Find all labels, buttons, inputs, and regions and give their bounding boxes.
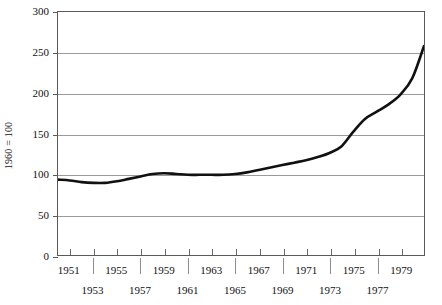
x-axis-label-separator <box>330 258 331 274</box>
x-axis-tick-label: 1955 <box>105 265 127 276</box>
x-axis-tick-label: 1967 <box>248 265 270 276</box>
x-axis-label-separator <box>283 258 284 274</box>
y-axis-tick-label: 0 <box>44 251 50 262</box>
x-axis-tick-labels: 1951195319551957195919611963196519671969… <box>57 256 425 305</box>
plot-inner <box>58 12 424 255</box>
y-axis-tick-label: 250 <box>33 47 50 58</box>
x-axis-tick-label: 1969 <box>272 285 294 296</box>
y-axis-title-label: 1960 = 100 <box>4 121 15 169</box>
x-axis-tick-label: 1977 <box>367 285 389 296</box>
x-axis-label-separator <box>235 258 236 274</box>
x-axis-label-separator <box>188 258 189 274</box>
x-axis-tick-label: 1979 <box>390 265 412 276</box>
x-axis-tick-label: 1965 <box>224 285 246 296</box>
y-axis-tick-mark <box>53 135 58 136</box>
y-axis-tick-label: 150 <box>33 129 50 140</box>
x-axis-tick-label: 1971 <box>295 265 317 276</box>
x-axis-tick-label: 1963 <box>200 265 222 276</box>
y-axis-tick-label: 50 <box>38 210 49 221</box>
x-axis-tick-label: 1951 <box>58 265 80 276</box>
x-axis-tick-label: 1957 <box>129 285 151 296</box>
y-axis-tick-label: 100 <box>33 169 50 180</box>
x-axis-tick-label: 1953 <box>82 285 104 296</box>
x-axis-label-separator <box>378 258 379 274</box>
y-axis-title: 1960 = 100 <box>0 100 18 190</box>
x-axis-tick-label: 1959 <box>153 265 175 276</box>
y-axis-tick-labels: 050100150200250300 <box>18 0 53 305</box>
y-axis-tick-label: 300 <box>33 6 50 17</box>
series-line-index <box>58 12 424 255</box>
y-axis-tick-mark <box>53 94 58 95</box>
x-axis-label-separator <box>140 258 141 274</box>
y-axis-tick-mark <box>53 216 58 217</box>
y-axis-tick-label: 200 <box>33 88 50 99</box>
x-axis-tick-label: 1975 <box>343 265 365 276</box>
y-axis-tick-mark <box>53 53 58 54</box>
y-axis-tick-mark <box>53 175 58 176</box>
plot-area <box>57 11 425 256</box>
x-axis-tick-label: 1973 <box>319 285 341 296</box>
y-axis-tick-mark <box>53 12 58 13</box>
x-axis-label-separator <box>93 258 94 274</box>
line-chart: 1960 = 100 050100150200250300 1951195319… <box>0 0 442 305</box>
x-axis-tick-label: 1961 <box>177 285 199 296</box>
